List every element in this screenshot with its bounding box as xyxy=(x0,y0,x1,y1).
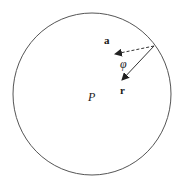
vector-r-label: r xyxy=(120,84,125,96)
angle-phi-label: φ xyxy=(120,57,127,71)
point-p-label: P xyxy=(87,90,96,104)
vector-a-label: a xyxy=(104,34,110,46)
diagram-canvas: a φ r P xyxy=(0,0,179,181)
